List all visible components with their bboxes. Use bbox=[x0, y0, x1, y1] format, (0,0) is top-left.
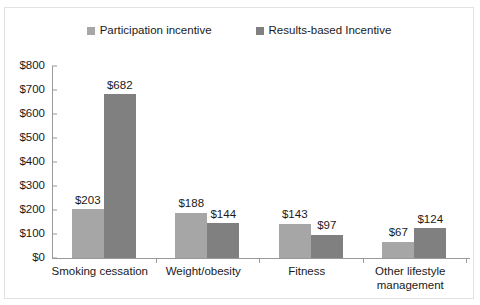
legend-item-results-based-incentive: Results-based Incentive bbox=[256, 25, 392, 37]
bar-column: $143 bbox=[279, 66, 311, 258]
x-axis-tick-mark bbox=[466, 258, 467, 263]
x-axis-category-label: Weight/obesity bbox=[152, 265, 256, 279]
bar-group: $143$97 bbox=[259, 66, 363, 258]
bar-column: $97 bbox=[311, 66, 343, 258]
plot-area: $0$100$200$300$400$500$600$700$800$203$6… bbox=[52, 66, 466, 258]
bar-value-label: $203 bbox=[75, 195, 101, 207]
bar-group: $203$682 bbox=[52, 66, 156, 258]
bar-value-label: $188 bbox=[178, 198, 204, 210]
legend-item-label: Participation incentive bbox=[100, 25, 212, 37]
y-axis-tick-label: $800 bbox=[19, 60, 52, 72]
bar-column: $124 bbox=[414, 66, 446, 258]
legend-item-label: Results-based Incentive bbox=[269, 25, 392, 37]
y-axis-tick-label: $400 bbox=[19, 156, 52, 168]
x-axis-tick-mark bbox=[363, 258, 364, 263]
bar[interactable] bbox=[207, 223, 239, 258]
bar-group-bars: $188$144 bbox=[175, 66, 239, 258]
chart-container: Participation incentive Results-based In… bbox=[4, 7, 474, 299]
bar-group: $67$124 bbox=[363, 66, 467, 258]
x-axis-category-label: Other lifestyle management bbox=[359, 265, 463, 292]
bar-value-label: $143 bbox=[282, 209, 308, 221]
y-axis-tick-label: $600 bbox=[19, 108, 52, 120]
bar[interactable] bbox=[104, 94, 136, 258]
y-axis-tick-label: $0 bbox=[32, 252, 52, 264]
bar-group-bars: $203$682 bbox=[72, 66, 136, 258]
x-axis-tick-mark bbox=[259, 258, 260, 263]
bar-group-bars: $67$124 bbox=[382, 66, 446, 258]
bar-column: $67 bbox=[382, 66, 414, 258]
x-axis-line bbox=[52, 258, 470, 259]
bar-column: $144 bbox=[207, 66, 239, 258]
bar-value-label: $67 bbox=[389, 227, 408, 239]
bar-column: $188 bbox=[175, 66, 207, 258]
legend-swatch-icon bbox=[256, 27, 264, 35]
bar[interactable] bbox=[72, 209, 104, 258]
y-axis-tick-label: $200 bbox=[19, 204, 52, 216]
bar-value-label: $144 bbox=[210, 209, 236, 221]
x-axis-category-label: Smoking cessation bbox=[48, 265, 152, 279]
bar-value-label: $124 bbox=[417, 214, 443, 226]
bar[interactable] bbox=[279, 224, 311, 258]
y-axis-tick-label: $700 bbox=[19, 84, 52, 96]
legend-swatch-icon bbox=[87, 27, 95, 35]
bar[interactable] bbox=[414, 228, 446, 258]
bar-value-label: $682 bbox=[107, 80, 133, 92]
bar-column: $203 bbox=[72, 66, 104, 258]
chart-legend: Participation incentive Results-based In… bbox=[5, 25, 473, 37]
y-axis-tick-label: $300 bbox=[19, 180, 52, 192]
y-axis-tick-label: $100 bbox=[19, 228, 52, 240]
y-axis-tick-label: $500 bbox=[19, 132, 52, 144]
x-axis-tick-mark bbox=[156, 258, 157, 263]
x-axis-category-label: Fitness bbox=[255, 265, 359, 279]
bar-column: $682 bbox=[104, 66, 136, 258]
bar-group-bars: $143$97 bbox=[279, 66, 343, 258]
bar[interactable] bbox=[175, 213, 207, 258]
bar[interactable] bbox=[382, 242, 414, 258]
bar-value-label: $97 bbox=[317, 220, 336, 232]
legend-item-participation-incentive: Participation incentive bbox=[87, 25, 212, 37]
bar-group: $188$144 bbox=[156, 66, 260, 258]
bar[interactable] bbox=[311, 235, 343, 258]
